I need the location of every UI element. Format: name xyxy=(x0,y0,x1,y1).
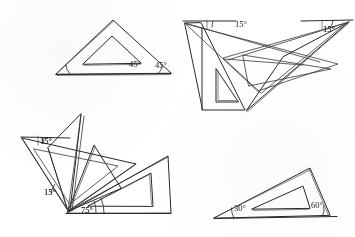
inner-cutout-triangle xyxy=(252,186,310,209)
drawing-sheet: 45° 45° 15° 15° xyxy=(0,0,355,237)
left-angle-arc xyxy=(212,21,213,28)
label-top-right-15: 15° xyxy=(323,25,335,34)
label-bl-base-75: 75° xyxy=(81,206,93,215)
figure-bottom-left xyxy=(8,112,180,224)
right-horizontal-reference xyxy=(301,20,353,21)
inner-cutout-shadow xyxy=(253,209,309,210)
label-top-left-15: 15° xyxy=(235,20,247,29)
figure-top-left xyxy=(50,12,175,84)
angle-arc-left xyxy=(66,64,70,73)
ray-b xyxy=(48,148,68,211)
ray-d xyxy=(68,164,136,211)
label-right-45: 45° xyxy=(155,61,167,70)
base-angle-arc-2 xyxy=(94,201,96,213)
label-br-60: 60° xyxy=(311,201,323,210)
label-bl-upper-15: 15° xyxy=(40,137,52,146)
left-flat-ruler-outline xyxy=(22,138,136,211)
overlay-line-f xyxy=(225,59,303,65)
label-inner-45: 45° xyxy=(129,60,141,69)
figure-bottom-right xyxy=(210,160,348,226)
overlay-triangle-a xyxy=(186,24,338,91)
left-ruler-outline xyxy=(185,23,245,110)
label-bl-mid-15: 15° xyxy=(44,188,56,197)
outer-triangle-outline xyxy=(56,20,171,74)
label-br-30: 30° xyxy=(234,204,246,213)
ray-a xyxy=(22,138,68,211)
right-ruler-outline xyxy=(246,22,349,111)
